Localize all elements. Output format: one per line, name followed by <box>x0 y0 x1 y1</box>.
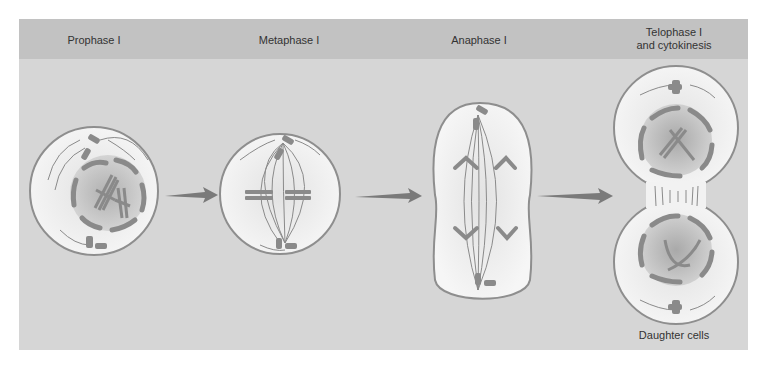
arrow-anaphase-to-telophase <box>537 188 613 204</box>
anaphase-cell <box>433 103 531 299</box>
metaphase-cell <box>220 134 340 254</box>
prophase-cell <box>30 127 158 255</box>
meiosis-illustration <box>0 0 767 368</box>
arrow-prophase-to-metaphase <box>165 187 218 203</box>
telophase-cells <box>608 66 738 324</box>
arrow-metaphase-to-anaphase <box>355 188 422 203</box>
